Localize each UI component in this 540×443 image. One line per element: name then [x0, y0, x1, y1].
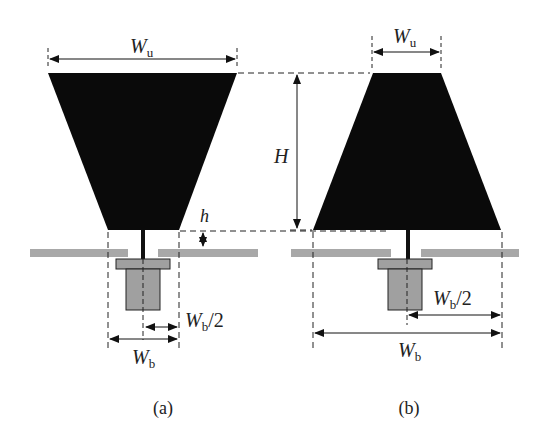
caption-b: (b) — [399, 398, 420, 419]
wu-label-a: Wu — [130, 35, 154, 60]
height-label: H — [273, 145, 290, 167]
caption-a: (a) — [153, 398, 173, 419]
wb-label-b: Wb — [398, 339, 421, 364]
wb-half-label-b: Wb/2 — [433, 287, 472, 312]
feed-pin-a — [141, 230, 145, 260]
wb-half-label-a: Wb/2 — [185, 309, 224, 334]
wb-label-a: Wb — [132, 346, 155, 371]
ground-plane-right-b — [421, 249, 519, 257]
panel-b: Wu H Wb/2 Wb (b) — [238, 25, 519, 419]
connector-flange-b — [378, 259, 432, 269]
ground-plane-left-a — [30, 249, 128, 257]
feed-pin-b — [406, 230, 410, 260]
antenna-diagram: Wu h Wb/2 Wb (a) — [0, 0, 540, 443]
h-label: h — [200, 206, 209, 226]
ground-plane-left-b — [291, 249, 391, 257]
connector-body-b — [388, 269, 422, 310]
ground-plane-right-a — [158, 249, 258, 257]
wu-label-b: Wu — [393, 25, 417, 50]
upright-trapezoid-patch — [313, 73, 501, 230]
